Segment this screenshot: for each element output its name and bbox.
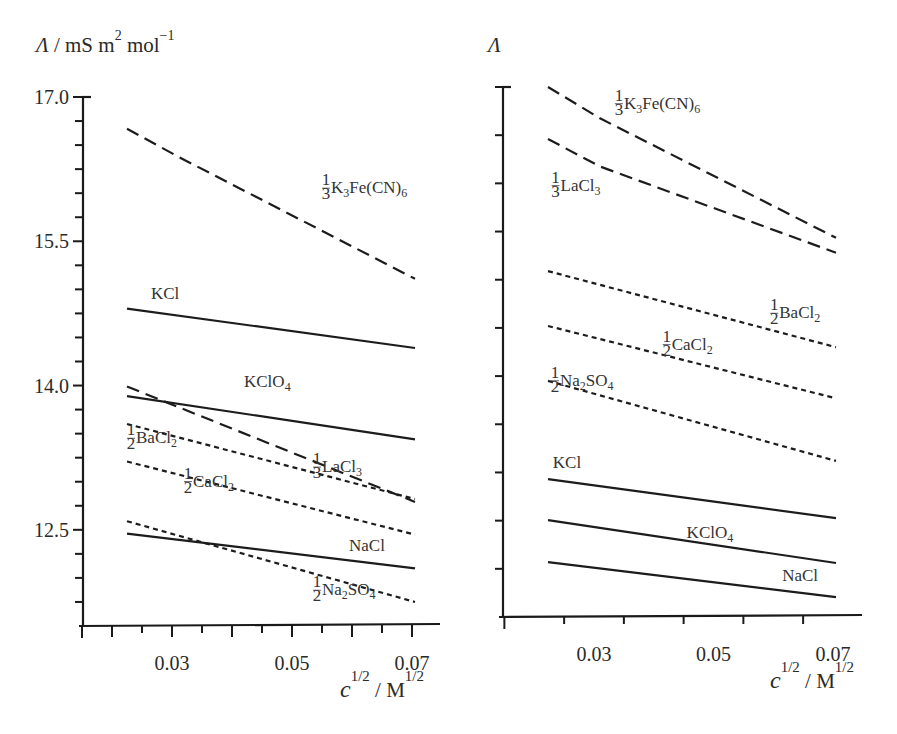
y-tick-label: 14.0 xyxy=(34,375,69,397)
series-label-text: CaCl2 xyxy=(193,472,234,494)
y-axis-title: Λ / mS m2 mol−1 xyxy=(34,28,174,57)
fraction-denominator: 2 xyxy=(184,478,193,497)
label-part: NaCl xyxy=(782,566,818,585)
series-label-text: LaCl3 xyxy=(561,176,601,198)
label-part: LaCl xyxy=(561,176,595,195)
x-axis-exp: 1/2 xyxy=(781,659,800,675)
label-part: KCl xyxy=(553,453,582,472)
series-label-text: BaCl2 xyxy=(779,303,820,325)
series-line-kcl xyxy=(548,479,836,518)
y-axis-unit2: mol xyxy=(122,33,160,57)
series-label: 12CaCl2 xyxy=(662,327,712,360)
subscript: 4 xyxy=(285,380,291,394)
series-label: NaCl xyxy=(349,536,385,555)
series-label-text: KCl xyxy=(151,284,180,303)
label-part: NaCl xyxy=(349,536,385,555)
series-label: KClO4 xyxy=(687,523,734,545)
y-axis-symbol: Λ xyxy=(486,33,501,57)
label-part: LaCl xyxy=(322,457,356,476)
series-label: KCl xyxy=(151,284,180,303)
series-label-text: NaCl xyxy=(349,536,385,555)
series-label: 13LaCl3 xyxy=(551,168,600,201)
label-part: K xyxy=(331,178,344,197)
subscript: 3 xyxy=(356,465,362,479)
series-label: NaCl xyxy=(782,566,818,585)
x-tick-label: 0.05 xyxy=(275,652,310,674)
series-label: 12 Na2SO4 xyxy=(313,572,376,605)
label-part: K xyxy=(624,94,637,113)
conductivity-chart: 17.015.514.012.50.030.050.07Λ / mS m2 mo… xyxy=(0,0,897,734)
series-line-kfecn xyxy=(127,129,415,279)
x-axis-unit: / M xyxy=(370,678,405,702)
x-axis-exp: 1/2 xyxy=(351,668,370,684)
subscript: 3 xyxy=(595,184,601,198)
subscript: 4 xyxy=(608,379,614,393)
x-axis-exp: 1/2 xyxy=(405,668,424,684)
fraction-denominator: 2 xyxy=(662,341,671,360)
y-axis-title: Λ xyxy=(486,33,501,57)
series-line-naso xyxy=(548,381,836,461)
label-part: CaCl xyxy=(672,335,707,354)
fraction-denominator: 2 xyxy=(127,434,136,453)
series-label-text: BaCl2 xyxy=(136,428,177,450)
x-axis-var: c xyxy=(770,667,781,693)
series-label: KClO4 xyxy=(244,372,291,394)
right-panel: 0.030.050.07Λc1/2 / M1/213K3Fe(CN)613LaC… xyxy=(486,33,862,693)
series-label-text: K3Fe(CN)6 xyxy=(331,178,407,200)
fraction-denominator: 3 xyxy=(615,100,624,119)
x-axis-title: c1/2 / M1/2 xyxy=(770,659,854,693)
x-axis xyxy=(79,624,440,626)
x-axis-title: c1/2 / M1/2 xyxy=(340,668,424,702)
fraction-denominator: 2 xyxy=(313,586,322,605)
series-label-text: K3Fe(CN)6 xyxy=(624,94,700,116)
y-axis-exp: −1 xyxy=(160,28,175,43)
series-label: 13K3Fe(CN)6 xyxy=(322,170,407,203)
y-axis-exp: 2 xyxy=(115,28,122,43)
subscript: 6 xyxy=(694,102,700,116)
subscript: 4 xyxy=(727,531,733,545)
fraction-denominator: 3 xyxy=(322,184,331,203)
series-label-text: NaCl xyxy=(782,566,818,585)
label-part: BaCl xyxy=(136,428,171,447)
label-part: Fe(CN) xyxy=(349,178,401,197)
left-panel: 17.015.514.012.50.030.050.07Λ / mS m2 mo… xyxy=(34,28,440,702)
x-tick-label: 0.03 xyxy=(577,643,612,665)
series-label: 12CaCl2 xyxy=(184,464,234,497)
y-axis-symbol: Λ xyxy=(34,33,49,57)
series-label-text: KCl xyxy=(553,453,582,472)
label-part: KClO xyxy=(244,372,285,391)
x-tick-label: 0.03 xyxy=(155,652,190,674)
label-part: BaCl xyxy=(779,303,814,322)
label-part: Fe(CN) xyxy=(642,94,694,113)
y-axis-unit: / mS m xyxy=(49,33,115,57)
label-part: SO xyxy=(348,580,370,599)
series-line-kcl xyxy=(127,309,415,348)
series-label: 13K3Fe(CN)6 xyxy=(615,86,700,119)
series-line-lacl xyxy=(548,139,836,253)
fraction-denominator: 2 xyxy=(770,309,779,328)
series-label-text: KClO4 xyxy=(687,523,734,545)
label-part: Na xyxy=(560,371,580,390)
y-tick-label: 15.5 xyxy=(34,230,69,252)
label-part: KClO xyxy=(687,523,728,542)
x-tick-label: 0.05 xyxy=(696,643,731,665)
series-label-text: Na2SO4 xyxy=(560,371,614,393)
y-tick-label: 12.5 xyxy=(34,519,69,541)
subscript: 6 xyxy=(401,186,407,200)
series-label: 12 Na2SO4 xyxy=(551,363,614,396)
subscript: 2 xyxy=(228,480,234,494)
x-axis-var: c xyxy=(340,676,351,702)
y-tick-label: 17.0 xyxy=(34,86,69,108)
series-label: 12 BaCl2 xyxy=(127,420,177,453)
subscript: 2 xyxy=(814,311,820,325)
subscript: 2 xyxy=(171,436,177,450)
subscript: 4 xyxy=(370,588,376,602)
series-line-cacl xyxy=(127,462,415,535)
series-label: KCl xyxy=(553,453,582,472)
series-label-text: Na2SO4 xyxy=(322,580,376,602)
x-axis xyxy=(499,615,862,617)
series-label: 12 BaCl2 xyxy=(770,295,820,328)
label-part: Na xyxy=(322,580,342,599)
label-part: SO xyxy=(586,371,608,390)
x-axis-unit: / M xyxy=(800,669,835,693)
